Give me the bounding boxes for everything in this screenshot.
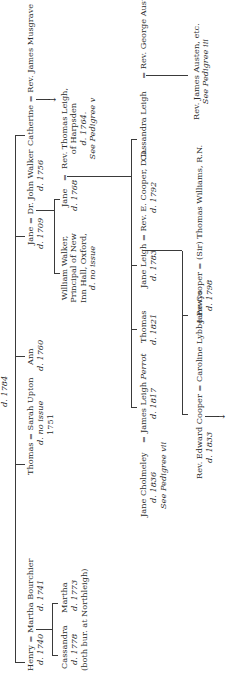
marriage-sign: = [194,385,204,392]
sibling-bar [131,140,132,408]
spouse-death-year: d. 1792 [149,182,158,213]
death-year: d. 1833 [205,432,214,463]
spouse-death-year: d. 1741 [36,580,45,611]
connector [131,329,137,330]
continuation-arrow-icon: → [217,412,225,422]
death-year: d. 1783 [149,250,158,281]
parent-death-label: d. 1784 [0,376,9,407]
marriage-sign: = [25,217,35,224]
connector [15,236,25,237]
connector [15,135,25,136]
connector [15,464,25,465]
sibling-bar [182,251,183,415]
name: Rev. Edward Cooper [194,394,204,479]
spouse-name: Dr. John Walker [25,150,35,215]
death-year: d. 1709 [36,218,45,249]
name: Thomas [25,442,35,475]
person-ann: Ann [26,349,35,365]
pedigree-chart: d. 1784 Henry = Martha Bourchier d. 1740… [0,0,236,673]
person-thomas-leigh-jr: Thomas [139,310,148,343]
person-jane-leigh: Jane Leigh = Rev. E. Cooper, D.D. [139,148,148,288]
name: James Leigh [138,382,148,433]
person-henry: Henry = Martha Bourchier [26,558,35,671]
marriage-sign: = [25,95,35,102]
sibling-bar [54,200,55,274]
line: d. no issue [88,233,97,303]
connector [15,662,25,663]
spouse-name: (Sir) Thomas Williams, R.N. [194,145,204,260]
person-jane-cholmeley: Jane Cholmeley [139,452,148,517]
connector [52,603,58,604]
descent-line [36,629,52,630]
spouse-name: Rev. James Musgrave [25,4,35,93]
death-year: d. 1821 [149,314,158,345]
death-year: d. 1778 [70,634,79,665]
person-martha: Martha [60,582,69,613]
descent-line [146,250,182,251]
descent-line [36,210,54,211]
marriage-sign: = [25,433,35,440]
name: Cassandra Leigh [138,91,148,161]
ref: See Pedigree vii [158,442,168,509]
name: Jane [25,227,35,245]
pedigree-ref: See Pedigree vii [159,442,168,509]
death-year: d. 1836 [149,472,158,503]
spouse-name: Sarah Upton [25,378,35,431]
person-catherine: Catherine = Rev. James Musgrave [26,4,35,146]
marriage-sign: = [25,636,35,643]
marriage-sign: = [194,263,204,270]
death-year: d. 1740 [36,634,45,665]
person-cassandra-leigh: Cassandra Leigh = Rev. George Austen [139,0,148,161]
burial-note: (both bur. at Northleigh) [80,569,89,671]
death-year: d. 1784 [0,376,9,407]
connector [131,265,137,266]
person-jane: Jane = Dr. John Walker [26,150,35,245]
name: Jane Cooper [194,272,204,323]
connector [182,315,188,316]
spouse-death-year: d. 1756 [36,160,45,191]
sibling-bar [52,604,53,656]
person-jane-walker: Jane [60,189,69,207]
connector [131,139,137,140]
connector [15,356,25,357]
person-william-walker: William Walker, Principal of New Inn Hal… [60,233,98,303]
name: Henry [25,645,35,671]
person-james-leigh-perrot: James Leigh Perrot [139,353,148,433]
person-james-austen: Rev. James Austen, etc. See Pedigree iii [192,23,211,120]
person-jane-cooper: Jane Cooper = (Sir) Thomas Williams, R.N… [195,145,204,323]
connector [131,407,137,408]
marriage-sign: = [139,436,148,443]
death-note: d. no issue [36,401,45,445]
line: See Pedigree iii [201,23,210,120]
person-thomas: Thomas = Sarah Upton [26,378,35,475]
generation1-bar [15,136,16,663]
connector [52,655,58,656]
descent-line [146,75,188,76]
continuation-arrow-icon: → [48,95,56,105]
surname: Perrot [138,353,148,379]
spouse-name: Rev. George Austen [138,0,148,69]
person-cassandra: Cassandra [60,625,69,669]
connector [182,414,188,415]
marriage-year: 1751 [46,414,55,435]
death-year: d. 1798 [205,280,214,311]
person-thomas-leigh: Rev. Thomas Leigh, of Harpsden d. 1764. … [60,88,98,169]
death-year: d. 1773 [70,580,79,611]
descent-line [67,176,131,177]
marriage-sign: = [138,234,148,241]
death-year: d. 1760 [36,340,45,371]
line: See Pedigree v [88,88,97,169]
spouse-name: Martha Bourchier [25,558,35,633]
death-year: d. 1768 [70,180,79,211]
name: Catherine [25,105,35,146]
death-year: d. 1817 [149,388,158,419]
